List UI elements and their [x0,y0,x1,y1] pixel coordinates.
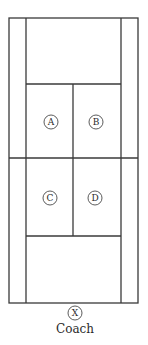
coach-marker: X [68,306,82,320]
coach-caption: Coach [56,322,94,336]
player-label: A [47,117,55,127]
player-label: D [91,193,98,203]
player-label: B [93,117,100,127]
player-marker-c: C [43,191,57,205]
coach-marker-label: X [72,308,79,318]
player-label: C [47,193,54,203]
player-marker-d: D [88,191,102,205]
player-marker-a: A [44,115,58,129]
player-marker-b: B [89,115,103,129]
tennis-court-diagram: A B C D X Coach [0,0,148,345]
